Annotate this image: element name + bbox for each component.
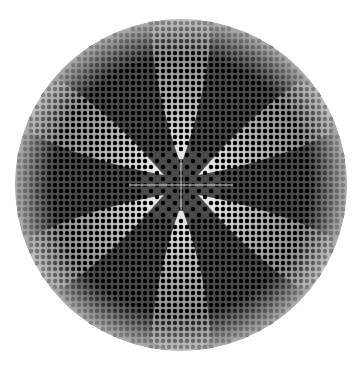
figure: Circular dot-grid pattern with a six-pet…	[0, 0, 362, 368]
dot-disc	[15, 15, 347, 355]
dot-flower-graphic	[0, 0, 362, 368]
